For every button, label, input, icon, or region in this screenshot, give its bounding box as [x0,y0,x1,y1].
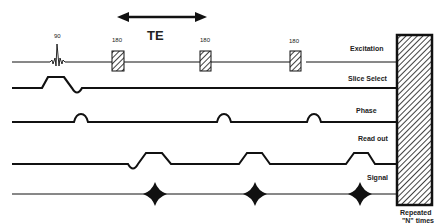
row-label-phase: Phase [356,107,377,114]
excitation-row [12,44,397,71]
te-label: TE [147,28,164,43]
row-label-excitation: Excitation [350,45,383,52]
echo-signal-2 [243,182,267,206]
phase-waveform [12,114,397,122]
pulse-sequence-diagram: TE 90 180 180 180 Excitation Slice Selec… [0,0,442,224]
readout-waveform [12,153,397,169]
rf-180-pulse-1 [112,51,124,71]
pulse-180-label-2: 180 [200,37,211,43]
slice-select-waveform [12,77,397,93]
te-arrow [117,12,207,22]
repeat-block [397,35,432,205]
pulse-90-label: 90 [54,33,61,39]
rf-180-pulse-3 [290,51,301,71]
echo-signal-1 [143,182,167,206]
pulse-180-label-1: 180 [112,37,123,43]
row-label-read-out: Read out [358,135,389,142]
row-label-signal: Signal [367,174,388,182]
echo-signal-3 [348,182,372,206]
repeat-label-line1: Repeated [400,209,432,217]
pulse-180-label-3: 180 [289,38,300,44]
rf-90-pulse [50,44,65,66]
rf-180-pulse-2 [200,51,211,71]
row-label-slice-select: Slice Select [348,75,388,82]
repeat-label-line2: "N" times [402,217,434,224]
